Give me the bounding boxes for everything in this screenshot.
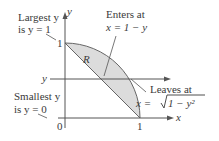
- leaves-label-prefix: x =: [136, 97, 151, 109]
- x-axis-label: x: [176, 111, 181, 123]
- y-tick-one: 1: [57, 37, 63, 49]
- origin-label: 0: [57, 120, 63, 132]
- smallest-label-line2: is y = 0: [14, 103, 47, 115]
- smallest-label-line1: Smallest y: [14, 90, 60, 102]
- enters-label-line2: x = 1 − y: [106, 21, 147, 33]
- leaves-radicand: 1 − y²: [168, 97, 195, 109]
- x-tick-one: 1: [137, 120, 143, 132]
- slice-arrow-icon: [164, 77, 171, 82]
- leaves-label-line1: Leaves at: [150, 83, 192, 95]
- slice-y-label: y: [42, 72, 47, 84]
- enters-label-line1: Enters at: [106, 8, 145, 20]
- largest-label-line2: is y = 1: [18, 23, 51, 35]
- x-axis-arrow-icon: [167, 116, 174, 121]
- region-label: R: [83, 53, 90, 65]
- largest-label-line1: Largest y: [18, 11, 59, 23]
- y-axis-label: y: [67, 5, 72, 17]
